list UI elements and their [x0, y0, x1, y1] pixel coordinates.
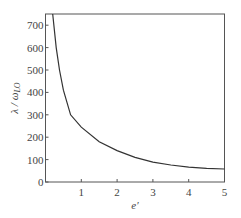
y-tick-label: 600	[27, 42, 44, 54]
y-tick-label: 200	[27, 131, 44, 143]
y-axis-label-sub: LO	[13, 82, 22, 93]
y-tick-label: 100	[27, 154, 44, 166]
x-axis-label: e′	[131, 199, 139, 211]
y-tick-label: 0	[38, 176, 44, 188]
y-tick-label: 700	[27, 19, 44, 31]
y-tick-label: 500	[27, 64, 44, 76]
y-tick-label: 300	[27, 109, 44, 121]
y-tick-label: 400	[27, 86, 44, 98]
line-chart: 010020030040050060070012345 e′ λ / ωLO	[0, 0, 241, 218]
y-axis-label: λ / ωLO	[8, 82, 22, 115]
x-tick-label: 3	[150, 186, 156, 198]
y-axis-label-main: λ / ω	[8, 92, 20, 114]
x-tick-label: 2	[114, 186, 120, 198]
data-curve	[53, 14, 225, 169]
x-tick-label: 5	[222, 186, 228, 198]
x-tick-label: 1	[79, 186, 85, 198]
ticks: 010020030040050060070012345	[27, 19, 228, 198]
x-tick-label: 4	[186, 186, 192, 198]
